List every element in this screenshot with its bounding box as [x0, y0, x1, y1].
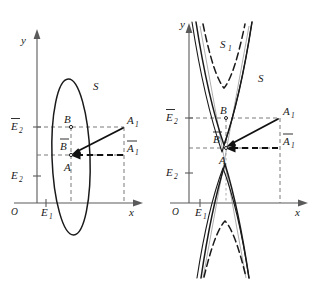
right-point-B	[225, 117, 228, 120]
left-solid-vector	[71, 128, 123, 155]
svg-text:1: 1	[135, 148, 139, 157]
left-label-E2bar: E 2	[10, 119, 23, 136]
left-label-E2: E 2	[10, 169, 23, 184]
right-point-label-A1bar: A 1	[282, 134, 295, 150]
right-dashed-vector	[226, 145, 278, 153]
svg-text:B: B	[60, 140, 67, 152]
figure-canvas: y x O E 2 E 2 E 1	[0, 0, 316, 282]
right-x-axis	[170, 200, 308, 207]
svg-text:2: 2	[19, 175, 23, 184]
right-label-E2bar: E 2	[165, 110, 178, 127]
left-point-B	[69, 125, 72, 128]
right-panel: y x O E 2 E 2 E 1	[165, 18, 308, 278]
right-point-label-B: B	[220, 104, 227, 116]
svg-text:A: A	[282, 105, 290, 117]
left-point-label-A1: A 1	[126, 114, 139, 129]
left-y-axis	[34, 29, 41, 203]
svg-text:A: A	[126, 114, 134, 126]
right-point-A	[225, 147, 228, 150]
left-origin-label: O	[11, 207, 18, 217]
svg-text:1: 1	[291, 141, 295, 150]
left-point-label-B: B	[64, 113, 71, 125]
right-point-label-A: A	[218, 154, 226, 166]
svg-text:E: E	[165, 166, 173, 178]
svg-text:E: E	[10, 169, 18, 181]
right-x-axis-label: x	[294, 206, 300, 218]
left-y-axis-label: y	[20, 34, 26, 46]
svg-text:2: 2	[19, 126, 23, 135]
svg-text:E: E	[194, 206, 202, 218]
svg-text:E: E	[40, 206, 48, 218]
right-y-axis-label: y	[179, 18, 185, 30]
figure-svg: y x O E 2 E 2 E 1	[0, 0, 316, 282]
right-origin-label: O	[172, 207, 179, 217]
left-point-label-A1bar: A 1	[126, 141, 139, 157]
right-curve-label-S: S	[258, 72, 264, 84]
right-label-E1: E 1	[194, 206, 207, 221]
svg-text:1: 1	[291, 111, 295, 120]
right-point-label-A1: A 1	[282, 105, 295, 120]
svg-text:E: E	[10, 120, 18, 132]
svg-text:S: S	[220, 38, 226, 50]
left-x-axis-label: x	[128, 206, 134, 218]
svg-text:2: 2	[174, 117, 178, 126]
svg-text:1: 1	[135, 120, 139, 129]
left-point-label-Bbar: B	[60, 139, 69, 152]
right-label-E2: E 2	[165, 166, 178, 181]
svg-text:1: 1	[228, 44, 232, 53]
left-point-A	[69, 153, 72, 156]
right-solid-vector	[226, 119, 278, 147]
left-point-label-A: A	[63, 161, 71, 173]
svg-text:A: A	[282, 135, 290, 147]
left-curve-label-S: S	[93, 80, 99, 92]
svg-text:E: E	[165, 111, 173, 123]
svg-text:1: 1	[49, 212, 53, 221]
left-dashed-vector	[71, 152, 123, 160]
svg-text:A: A	[126, 142, 134, 154]
svg-text:2: 2	[174, 172, 178, 181]
svg-text:1: 1	[203, 212, 207, 221]
left-panel: y x O E 2 E 2 E 1	[10, 29, 143, 236]
svg-text:B: B	[213, 133, 220, 145]
right-y-axis	[186, 23, 193, 203]
right-curve-label-S1: S 1	[220, 38, 232, 53]
left-label-E1: E 1	[40, 206, 53, 221]
